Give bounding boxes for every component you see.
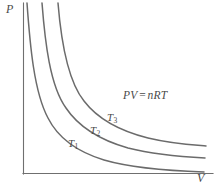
y-axis-label: P (6, 3, 13, 15)
isotherm-curve-T2 (42, 3, 205, 158)
curve-label-T2-subscript: 2 (96, 129, 100, 138)
equation-rhs: nRT (147, 89, 167, 101)
equation-annotation: PV=nRT (123, 90, 168, 102)
x-axis-label: V (197, 172, 204, 184)
plot-area (0, 0, 219, 190)
equation-operator: = (138, 89, 148, 101)
equation-lhs: PV (123, 89, 138, 101)
curve-label-T3: T3 (107, 112, 117, 123)
ideal-gas-law-figure: P V T1 T2 T3 PV=nRT (0, 0, 219, 190)
curve-label-T2: T2 (90, 125, 100, 136)
isotherm-curve-T1 (27, 3, 204, 172)
curve-label-T1: T1 (68, 138, 78, 149)
curve-label-T1-subscript: 1 (74, 142, 78, 151)
curve-label-T3-subscript: 3 (113, 116, 117, 125)
